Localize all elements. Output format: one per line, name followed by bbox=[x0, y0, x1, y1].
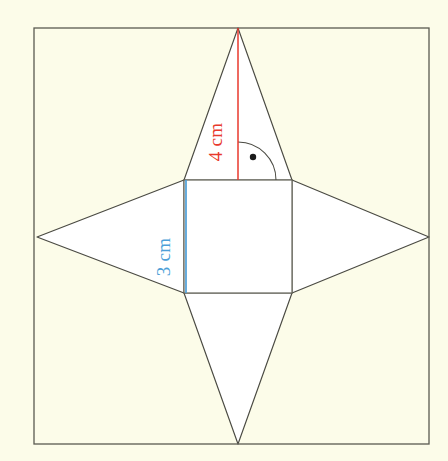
slant-height-label: 4 cm bbox=[205, 123, 226, 162]
right-angle-dot bbox=[250, 154, 256, 160]
geometry-diagram-canvas: 4 cm 3 cm bbox=[0, 0, 448, 461]
net-diagram-svg: 4 cm 3 cm bbox=[0, 0, 448, 461]
base-edge-label: 3 cm bbox=[153, 238, 174, 277]
base-square bbox=[184, 180, 292, 293]
triangle-right bbox=[292, 180, 429, 293]
triangle-bottom bbox=[184, 293, 292, 444]
